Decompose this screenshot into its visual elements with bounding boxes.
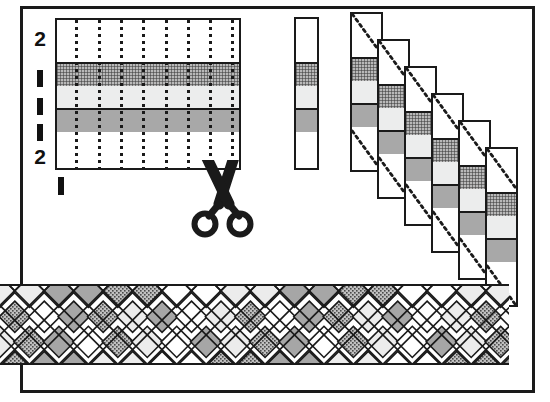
- weave-pattern: [0, 286, 509, 365]
- cut-guide-line: [142, 20, 145, 168]
- cascade-strip-band: [487, 149, 516, 192]
- strip-band-light: [296, 86, 317, 108]
- woven-plaid-band: [0, 284, 509, 365]
- cascade-strip: [485, 147, 518, 307]
- stripe-width-labels: 2 2: [28, 18, 52, 170]
- cut-guide-line: [75, 20, 78, 168]
- scissors-icon: [185, 160, 265, 242]
- stripe-label-4: [28, 124, 52, 141]
- cut-guide-line: [165, 20, 168, 168]
- cut-guide-line: [209, 20, 212, 168]
- strip-band-white-top: [296, 19, 317, 62]
- stripe-label-2: [28, 70, 52, 87]
- cut-guide-line: [231, 20, 234, 168]
- cut-guide-line: [98, 20, 101, 168]
- cascade-strip-band: [487, 216, 516, 238]
- stripe-label-5: 2: [28, 146, 52, 167]
- stripe-label-1: 2: [28, 28, 52, 49]
- figure-canvas: 2 2: [0, 0, 550, 402]
- cut-guide-line: [187, 20, 190, 168]
- strip-band-white-bottom: [296, 132, 317, 168]
- cut-guide-line: [120, 20, 123, 168]
- warp-grid-panel: [55, 18, 241, 170]
- single-cut-strip: [294, 17, 319, 170]
- stripe-label-bottom: [58, 177, 72, 195]
- stripe-label-3: [28, 98, 52, 115]
- strip-cascade: [350, 12, 515, 282]
